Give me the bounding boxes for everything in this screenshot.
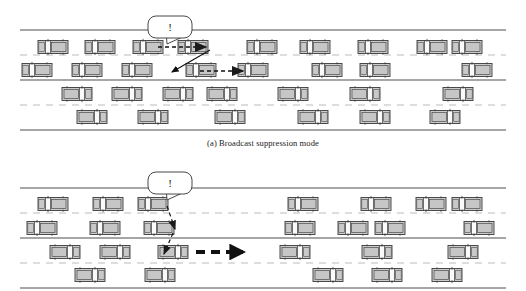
vehicle [62, 86, 92, 102]
multihop-relay-panel: ! [20, 172, 506, 288]
vehicle [361, 196, 391, 212]
vehicle [144, 220, 174, 236]
vehicle [90, 220, 120, 236]
vehicle [416, 196, 446, 212]
vehicle [238, 62, 268, 78]
vehicle [186, 62, 216, 78]
vehicle [417, 39, 447, 55]
panel-a-caption: (a) Broadcast suppression mode [0, 138, 526, 148]
vehicle [452, 39, 482, 55]
vehicle [93, 196, 123, 212]
vehicle [430, 109, 460, 125]
vehicle [22, 62, 52, 78]
vehicle [360, 109, 390, 125]
vehicle [77, 109, 107, 125]
vehicle [313, 267, 343, 283]
vehicle [312, 62, 342, 78]
vehicle [138, 196, 168, 212]
vehicle [50, 244, 80, 260]
vehicle [75, 267, 105, 283]
vehicle [163, 86, 193, 102]
vehicle [38, 39, 68, 55]
vehicle [158, 244, 188, 260]
vehicle [362, 244, 392, 260]
vehicle [122, 62, 152, 78]
vehicle [100, 244, 130, 260]
vehicle [338, 220, 368, 236]
vehicle [464, 220, 494, 236]
vehicle [375, 220, 405, 236]
vehicle [288, 196, 318, 212]
speech-bubble-label: ! [168, 21, 172, 33]
vehicle [247, 39, 277, 55]
vehicle [298, 109, 328, 125]
vehicle [350, 86, 380, 102]
vehicle [278, 86, 308, 102]
vehicle [112, 86, 142, 102]
alert-speech-bubble: ! [148, 172, 192, 200]
broadcast-suppression-panel: ! [20, 16, 506, 130]
speech-bubble-label: ! [168, 177, 172, 189]
vehicle [280, 244, 310, 260]
vehicle [145, 267, 175, 283]
vehicle [452, 196, 482, 212]
vehicle [448, 244, 478, 260]
vehicle [38, 196, 68, 212]
vehicle [360, 62, 390, 78]
vehicle [72, 62, 102, 78]
vehicle [372, 267, 402, 283]
vehicle [207, 86, 237, 102]
vehicle [138, 109, 168, 125]
vehicle [443, 86, 473, 102]
vehicle [285, 220, 315, 236]
vehicle [215, 109, 245, 125]
vehicle [432, 267, 462, 283]
vehicle [300, 39, 330, 55]
figure-root: ! ! (a) Broadcast suppression mode [0, 0, 526, 291]
alert-speech-bubble: ! [148, 16, 192, 44]
vehicle [85, 39, 115, 55]
vehicle [462, 62, 492, 78]
vehicle [27, 220, 57, 236]
vehicle [358, 39, 388, 55]
